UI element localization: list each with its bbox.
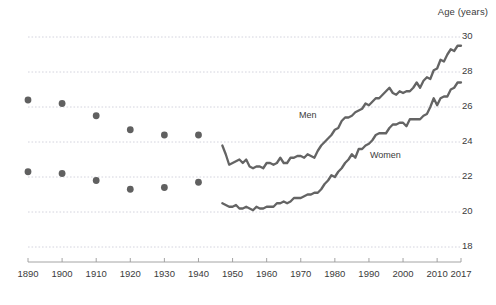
chart-plot-area	[0, 0, 496, 305]
chart-figure: Age (years) 18202224262830 1890190019101…	[0, 0, 496, 305]
y-tick-26: 26	[462, 100, 488, 111]
y-axis-title: Age (years)	[438, 6, 488, 17]
series-label-women: Women	[370, 150, 401, 160]
x-tick-2017: 2017	[441, 268, 481, 279]
y-tick-24: 24	[462, 135, 488, 146]
y-tick-18: 18	[462, 240, 488, 251]
y-tick-28: 28	[462, 65, 488, 76]
y-tick-30: 30	[462, 30, 488, 41]
series-label-men: Men	[299, 110, 317, 120]
y-tick-20: 20	[462, 205, 488, 216]
y-tick-22: 22	[462, 170, 488, 181]
